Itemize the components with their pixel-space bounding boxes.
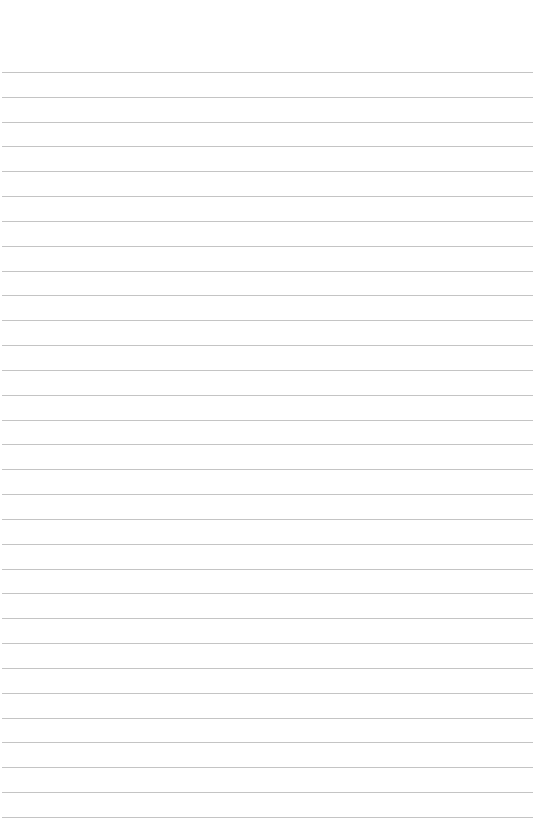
ruled-line xyxy=(2,444,533,445)
ruled-line xyxy=(2,420,533,421)
ruled-line xyxy=(2,544,533,545)
ruled-line xyxy=(2,395,533,396)
ruled-line xyxy=(2,569,533,570)
ruled-line xyxy=(2,320,533,321)
ruled-line xyxy=(2,693,533,694)
ruled-line xyxy=(2,97,533,98)
ruled-line xyxy=(2,171,533,172)
ruled-line xyxy=(2,668,533,669)
ruled-line xyxy=(2,817,533,818)
ruled-line xyxy=(2,72,533,73)
ruled-line xyxy=(2,221,533,222)
ruled-line xyxy=(2,246,533,247)
ruled-line xyxy=(2,767,533,768)
ruled-line xyxy=(2,519,533,520)
ruled-line xyxy=(2,593,533,594)
ruled-line xyxy=(2,618,533,619)
ruled-line xyxy=(2,469,533,470)
ruled-line xyxy=(2,370,533,371)
ruled-line xyxy=(2,643,533,644)
ruled-line xyxy=(2,345,533,346)
ruled-line xyxy=(2,718,533,719)
ruled-line xyxy=(2,146,533,147)
ruled-line xyxy=(2,494,533,495)
ruled-line xyxy=(2,792,533,793)
ruled-line xyxy=(2,742,533,743)
ruled-line xyxy=(2,295,533,296)
ruled-line xyxy=(2,196,533,197)
lined-paper-page xyxy=(0,0,536,836)
ruled-line xyxy=(2,122,533,123)
ruled-line xyxy=(2,271,533,272)
